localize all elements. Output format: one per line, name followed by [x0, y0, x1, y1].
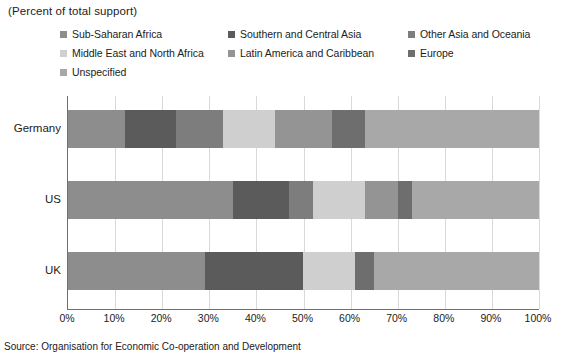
- x-tick-label: 50%: [292, 312, 313, 324]
- legend-swatch-icon: [60, 69, 67, 76]
- legend-label: Middle East and North Africa: [72, 47, 204, 59]
- legend-label: Southern and Central Asia: [240, 28, 361, 40]
- legend-item-5[interactable]: Europe: [408, 47, 454, 59]
- category-label: US: [0, 193, 61, 205]
- x-tick-label: 0%: [59, 312, 74, 324]
- legend-label: Sub-Saharan Africa: [72, 28, 162, 40]
- category-label: Germany: [0, 122, 61, 134]
- x-tick-label: 100%: [525, 312, 552, 324]
- x-tick-label: 60%: [339, 312, 360, 324]
- category-labels: GermanyUSUK: [0, 96, 576, 309]
- x-tick-label: 20%: [151, 312, 172, 324]
- x-tick-label: 30%: [198, 312, 219, 324]
- legend-swatch-icon: [228, 50, 235, 57]
- x-tick-label: 70%: [386, 312, 407, 324]
- legend-item-6[interactable]: Unspecified: [60, 66, 126, 78]
- chart-subtitle: (Percent of total support): [8, 5, 137, 17]
- legend-item-1[interactable]: Southern and Central Asia: [228, 28, 361, 40]
- legend-swatch-icon: [228, 31, 235, 38]
- x-tick-label: 80%: [433, 312, 454, 324]
- chart-legend: Sub-Saharan AfricaSouthern and Central A…: [60, 28, 560, 86]
- legend-label: Europe: [420, 47, 454, 59]
- category-label: UK: [0, 264, 61, 276]
- legend-label: Latin America and Caribbean: [240, 47, 374, 59]
- x-tick-label: 10%: [104, 312, 125, 324]
- x-axis-tick-labels: 0%10%20%30%40%50%60%70%80%90%100%: [0, 312, 576, 330]
- legend-item-4[interactable]: Latin America and Caribbean: [228, 47, 374, 59]
- legend-swatch-icon: [60, 31, 67, 38]
- legend-swatch-icon: [60, 50, 67, 57]
- legend-item-0[interactable]: Sub-Saharan Africa: [60, 28, 162, 40]
- legend-label: Other Asia and Oceania: [420, 28, 530, 40]
- legend-item-2[interactable]: Other Asia and Oceania: [408, 28, 530, 40]
- stacked-bar-chart: (Percent of total support) Sub-Saharan A…: [0, 0, 576, 357]
- source-note: Source: Organisation for Economic Co-ope…: [4, 341, 301, 352]
- x-tick-label: 90%: [480, 312, 501, 324]
- legend-swatch-icon: [408, 50, 415, 57]
- legend-swatch-icon: [408, 31, 415, 38]
- legend-label: Unspecified: [72, 66, 126, 78]
- x-tick-label: 40%: [245, 312, 266, 324]
- legend-item-3[interactable]: Middle East and North Africa: [60, 47, 204, 59]
